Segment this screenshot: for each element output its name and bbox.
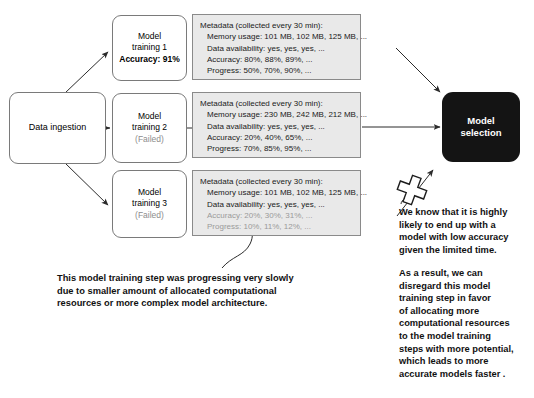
metadata-box-2: Metadata (collected every 30 min): Memor… [192, 92, 361, 158]
metadata1-availability: Data availability: yes, yes, yes, ... [200, 43, 354, 54]
training3-line1: Model [138, 187, 161, 199]
node-data-ingestion[interactable]: Data ingestion [9, 92, 106, 164]
metadata2-progress: Progress: 70%, 85%, 95%, ... [200, 143, 354, 154]
annotation-right-bottom: As a result, we can disregard this model… [399, 267, 534, 380]
training1-status: Accuracy: 91% [119, 54, 179, 66]
edge-ingestion-to-training1 [65, 52, 108, 93]
annotation-right-top: We know that it is highly likely to end … [399, 206, 533, 256]
annotation-right-top-line-2: likely to end up with a [399, 219, 533, 232]
node-model-training-2[interactable]: Model training 2 (Failed) [112, 93, 187, 163]
edge-ingestion-to-training3 [65, 163, 108, 205]
annotation-right-bottom-line-8: which leads to more [399, 355, 534, 368]
metadata1-memory: Memory usage: 101 MB, 102 MB, 125 MB, ..… [200, 31, 354, 42]
training1-line2: training 1 [132, 42, 167, 54]
node-model-selection[interactable]: Model selection [442, 92, 520, 162]
annotation-left-line-3: resources or more complex model architec… [57, 297, 377, 310]
training3-status: (Failed) [135, 210, 164, 222]
node-model-training-1[interactable]: Model training 1 Accuracy: 91% [112, 15, 187, 81]
metadata-box-3: Metadata (collected every 30 min): Memor… [192, 170, 361, 236]
metadata-box-1: Metadata (collected every 30 min): Memor… [192, 14, 361, 80]
model-selection-line1: Model [467, 115, 494, 128]
node-model-training-3[interactable]: Model training 3 (Failed) [112, 170, 187, 238]
metadata3-availability: Data availability: yes, yes, yes, ... [200, 199, 354, 210]
annotation-right-bottom-line-1: As a result, we can [399, 267, 534, 280]
metadata3-progress: Progress: 10%, 11%, 12%, ... [200, 221, 354, 232]
annotation-right-top-line-4: given the limited time. [399, 244, 533, 257]
metadata1-accuracy: Accuracy: 80%, 88%, 89%, ... [200, 54, 354, 65]
data-ingestion-label: Data ingestion [29, 122, 87, 134]
metadata2-availability: Data availability: yes, yes, yes, ... [200, 121, 354, 132]
annotation-left: This model training step was progressing… [57, 272, 377, 310]
model-selection-line2: selection [460, 127, 501, 140]
annotation-left-line-2: due to smaller amount of allocated compu… [57, 285, 377, 298]
annotation-right-top-line-3: model with low accuracy [399, 231, 533, 244]
x-cross-mark-icon [394, 172, 430, 208]
training3-line2: training 3 [132, 198, 167, 210]
annotation-left-line-1: This model training step was progressing… [57, 272, 377, 285]
training1-line1: Model [138, 31, 161, 43]
metadata2-memory: Memory usage: 230 MB, 242 MB, 212 MB, ..… [200, 109, 354, 120]
metadata3-memory: Memory usage: 101 MB, 102 MB, 125 MB, ..… [200, 187, 354, 198]
training2-line1: Model [138, 111, 161, 123]
diagram-canvas: Data ingestion Model training 1 Accuracy… [0, 0, 534, 398]
annotation-right-bottom-line-4: of allocating more [399, 305, 534, 318]
training2-line2: training 2 [132, 122, 167, 134]
annotation-right-bottom-line-5: computational resources [399, 317, 534, 330]
metadata3-header: Metadata (collected every 30 min): [200, 176, 354, 187]
metadata3-accuracy: Accuracy: 20%, 30%, 31%, ... [200, 210, 354, 221]
annotation-right-bottom-line-2: disregard this model [399, 280, 534, 293]
metadata2-header: Metadata (collected every 30 min): [200, 98, 354, 109]
metadata2-accuracy: Accuracy: 20%, 40%, 65%, ... [200, 132, 354, 143]
annotation-right-bottom-line-7: steps with more potential, [399, 343, 534, 356]
annotation-right-top-line-1: We know that it is highly [399, 206, 533, 219]
metadata1-progress: Progress: 50%, 70%, 90%, ... [200, 65, 354, 76]
training2-status: (Failed) [135, 134, 164, 146]
annotation-right-bottom-line-6: to the model training [399, 330, 534, 343]
annotation-right-bottom-line-3: training step in favor [399, 292, 534, 305]
edge-metadata1-to-selection [396, 48, 440, 92]
annotation-right-bottom-line-9: accurate models faster . [399, 368, 534, 381]
callout-curve-right [401, 198, 405, 204]
metadata1-header: Metadata (collected every 30 min): [200, 20, 354, 31]
